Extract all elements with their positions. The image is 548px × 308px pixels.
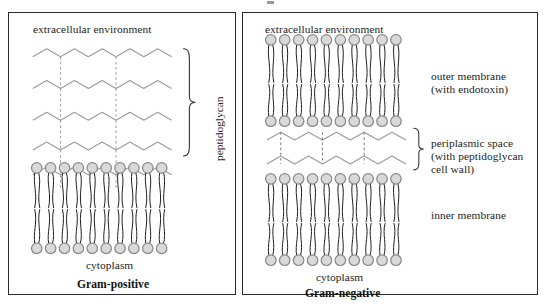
gram-negative-panel: extracellular environment outer membrane…: [242, 12, 538, 295]
gram-positive-panel: extracellular environment cytoplasm Gram…: [8, 12, 236, 295]
right-cytoplasm-label: cytoplasm: [316, 271, 363, 284]
periplasmic-space-label: periplasmic space (with peptidoglycan ce…: [431, 137, 523, 177]
gram-negative-caption: Gram-negative: [305, 287, 380, 300]
lipid-head-row-im-lower: [266, 255, 402, 266]
left-cytoplasm-label: cytoplasm: [86, 259, 133, 272]
peptidoglycan-brace: [183, 49, 195, 156]
outer-membrane-label: outer membrane (with endotoxin): [431, 70, 508, 96]
gram-positive-caption: Gram-positive: [77, 278, 149, 291]
left-extracellular-label: extracellular environment: [33, 23, 152, 36]
figure-root: extracellular environment cytoplasm Gram…: [0, 0, 548, 308]
periplasmic-peptidoglycan: [267, 132, 406, 164]
page-crop-artifact: [267, 1, 274, 4]
right-extracellular-label: extracellular environment: [265, 23, 384, 36]
periplasmic-brace: [414, 128, 424, 170]
periplasmic-crosslinks: [281, 132, 364, 164]
plasma-membrane: [32, 163, 167, 254]
peptidoglycan-layers: [33, 49, 172, 175]
gram-positive-illustration: [9, 13, 235, 294]
lipid-head-row-om-lower: [266, 116, 402, 127]
inner-membrane-bilayer: [266, 174, 402, 266]
outer-membrane-bilayer: [266, 35, 402, 127]
lipid-head-row-upper: [32, 163, 167, 174]
lipid-head-row-im-upper: [266, 174, 402, 185]
peptidoglycan-bracket-label: peptidoglycan: [213, 96, 225, 161]
lipid-head-row-lower: [32, 243, 167, 254]
inner-membrane-label: inner membrane: [431, 209, 506, 222]
